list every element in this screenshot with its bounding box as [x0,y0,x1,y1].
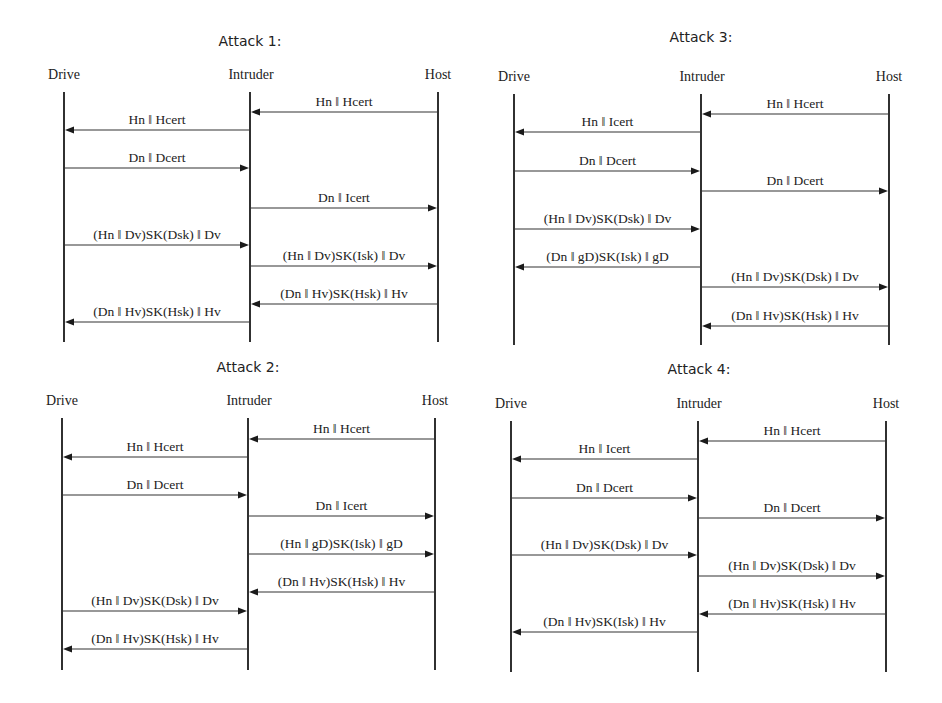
actor-label-host: Host [422,393,449,408]
message-label: Hn ‖ Hcert [126,439,183,454]
message-label: Dn ‖ Dcert [128,150,185,165]
message-label: Hn ‖ Icert [579,441,631,456]
message-label: Hn ‖ Hcert [313,421,370,436]
message-label: (Dn ‖ Hv)SK(Hsk) ‖ Hv [728,596,856,611]
actor-label-drive: Drive [498,69,530,84]
message-label: Dn ‖ Icert [318,190,370,205]
message-label: (Dn ‖ gD)SK(Isk) ‖ gD [546,249,669,264]
message-label: (Hn ‖ Dv)SK(Dsk) ‖ Dv [731,269,859,284]
message-label: (Hn ‖ Dv)SK(Dsk) ‖ Dv [541,537,669,552]
message-label: Dn ‖ Dcert [126,477,183,492]
actor-label-intruder: Intruder [226,393,271,408]
message-label: (Dn ‖ Hv)SK(Isk) ‖ Hv [543,614,666,629]
message-label: Hn ‖ Icert [582,114,634,129]
message-label: Dn ‖ Dcert [766,173,823,188]
message-label: (Hn ‖ Dv)SK(Dsk) ‖ Dv [91,593,219,608]
diagram-title: Attack 1: [219,33,282,49]
message-label: (Hn ‖ Dv)SK(Isk) ‖ Dv [283,248,406,263]
message-label: Hn ‖ Hcert [766,96,823,111]
message-label: Hn ‖ Hcert [315,94,372,109]
message-label: (Dn ‖ Hv)SK(Hsk) ‖ Hv [91,631,219,646]
diagram-title: Attack 2: [217,359,280,375]
message-label: (Hn ‖ Dv)SK(Dsk) ‖ Dv [544,211,672,226]
diagram-title: Attack 4: [668,361,731,377]
actor-label-host: Host [876,69,903,84]
actor-label-drive: Drive [46,393,78,408]
message-label: Dn ‖ Dcert [576,480,633,495]
message-label: Hn ‖ Hcert [763,423,820,438]
message-label: Hn ‖ Hcert [128,112,185,127]
actor-label-drive: Drive [495,396,527,411]
actor-label-host: Host [425,67,452,82]
actor-label-intruder: Intruder [679,69,724,84]
message-label: Dn ‖ Icert [316,498,368,513]
actor-label-intruder: Intruder [228,67,273,82]
diagram-title: Attack 3: [670,29,733,45]
message-label: (Hn ‖ gD)SK(Isk) ‖ gD [280,536,403,551]
message-label: Dn ‖ Dcert [763,500,820,515]
message-label: Dn ‖ Dcert [579,153,636,168]
actor-label-host: Host [873,396,900,411]
message-label: (Dn ‖ Hv)SK(Hsk) ‖ Hv [278,574,406,589]
actor-label-drive: Drive [48,67,80,82]
message-label: (Dn ‖ Hv)SK(Hsk) ‖ Hv [93,304,221,319]
actor-label-intruder: Intruder [676,396,721,411]
message-label: (Dn ‖ Hv)SK(Hsk) ‖ Hv [731,308,859,323]
attack-sequence-diagrams: Attack 1:DriveIntruderHostHn ‖ HcertHn ‖… [0,0,942,703]
message-label: (Dn ‖ Hv)SK(Hsk) ‖ Hv [280,286,408,301]
message-label: (Hn ‖ Dv)SK(Dsk) ‖ Dv [728,558,856,573]
message-label: (Hn ‖ Dv)SK(Dsk) ‖ Dv [93,227,221,242]
